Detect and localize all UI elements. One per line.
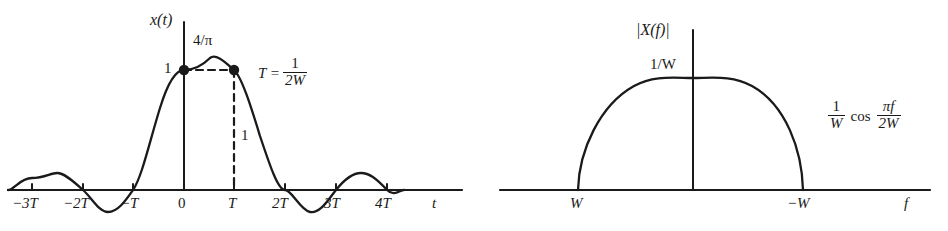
- left-marker-dot-T: [229, 65, 239, 75]
- left-tick-label-2T: 2T: [272, 196, 288, 211]
- left-relation-label: T = 1 2W: [258, 57, 307, 90]
- expression-arg-denominator: 2W: [877, 115, 901, 132]
- left-waveform-curve: [8, 57, 404, 213]
- left-tick-label-minus2T: −2T: [63, 196, 89, 211]
- left-drop-label: 1: [241, 128, 249, 143]
- figure-container: x(t) 4/π 1 1 T = 1 2W −3T −2T −T 0 T 2T …: [0, 0, 948, 231]
- left-y-intercept-label: 1: [164, 61, 172, 76]
- right-spectrum-curve: [578, 78, 803, 190]
- left-peak-label: 4/π: [193, 33, 212, 48]
- left-tick-label-T: T: [228, 196, 236, 211]
- relation-fraction: 1 2W: [283, 56, 307, 89]
- expression-lead-denominator: W: [828, 115, 845, 132]
- left-x-axis-label: t: [432, 196, 436, 211]
- right-tick-label-minusW: −W: [787, 196, 810, 211]
- right-peak-label: 1/W: [650, 57, 676, 72]
- expression-arg-numerator: πf: [877, 99, 901, 115]
- expression-arg-fraction: πf 2W: [877, 99, 901, 132]
- left-tick-label-4T: 4T: [375, 196, 391, 211]
- left-tick-label-3T: 3T: [324, 196, 340, 211]
- left-tick-label-minusT: −T: [120, 196, 138, 211]
- left-marker-dot-origin: [179, 65, 189, 75]
- relation-denominator: 2W: [283, 72, 307, 89]
- left-tick-label-0: 0: [178, 196, 186, 211]
- right-x-axis-label: f: [904, 196, 908, 211]
- relation-lhs: T =: [258, 66, 280, 81]
- expression-lead-numerator: 1: [828, 99, 845, 115]
- right-tick-label-W: W: [570, 196, 583, 211]
- relation-numerator: 1: [283, 56, 307, 72]
- expression-function: cos: [848, 109, 874, 124]
- right-expression-label: 1 W cos πf 2W: [828, 100, 901, 133]
- expression-lead-fraction: 1 W: [828, 99, 845, 132]
- right-y-axis-label: |X(f)|: [636, 22, 670, 38]
- left-y-axis-label: x(t): [150, 12, 172, 28]
- left-tick-label-minus3T: −3T: [12, 196, 38, 211]
